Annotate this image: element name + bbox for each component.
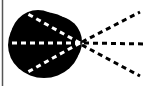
outer-rays [82,12,146,76]
ray-diagram [0,0,146,86]
ray-upper-outer [82,12,140,42]
ray-lower-outer [82,45,140,76]
diagram-canvas [0,0,146,86]
ray-middle-outer [84,43,146,44]
